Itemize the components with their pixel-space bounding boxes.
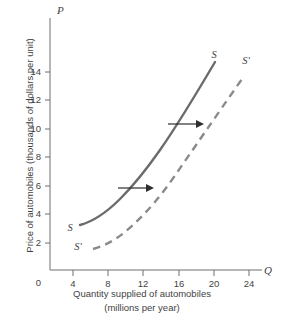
y-tick-label-8: 8 bbox=[36, 151, 41, 162]
shift-arrow-upper-head bbox=[196, 120, 204, 128]
y-axis-ticks bbox=[45, 72, 50, 243]
x-axis-title-line2: (millions per year) bbox=[0, 302, 284, 313]
x-axis-ticks bbox=[73, 270, 249, 276]
curve-label-s-upper: S bbox=[211, 49, 217, 60]
chart-canvas: 14 12 10 8 6 4 2 0 4 8 12 16 20 24 bbox=[0, 0, 284, 324]
supply-shift-chart: 14 12 10 8 6 4 2 0 4 8 12 16 20 24 bbox=[0, 0, 284, 324]
shift-arrow-lower bbox=[118, 184, 154, 192]
curve-label-s-prime-upper: S' bbox=[242, 55, 250, 66]
y-axis-variable-label: P bbox=[56, 4, 64, 16]
y-axis-title: Price of automobiles (thousands of dolla… bbox=[24, 21, 35, 271]
origin-label: 0 bbox=[36, 277, 41, 288]
y-tick-label-6: 6 bbox=[36, 180, 41, 191]
y-tick-label-4: 4 bbox=[36, 208, 41, 219]
x-axis-variable-label: Q bbox=[264, 264, 272, 276]
curve-label-s-lower: S bbox=[67, 222, 73, 233]
curve-label-s-prime-lower: S' bbox=[74, 241, 82, 252]
shift-arrow-lower-head bbox=[146, 184, 154, 192]
supply-curve-s bbox=[80, 62, 215, 225]
supply-curve-s-prime bbox=[93, 79, 242, 249]
x-axis-title-line1: Quantity supplied of automobiles bbox=[0, 288, 284, 299]
y-tick-label-2: 2 bbox=[36, 237, 41, 248]
shift-arrow-upper bbox=[168, 120, 204, 128]
